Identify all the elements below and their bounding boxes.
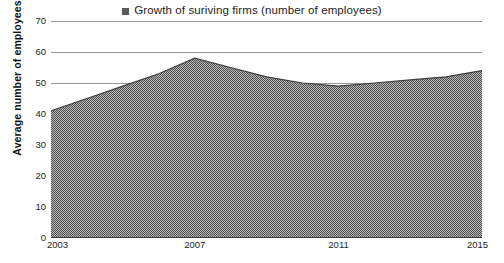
y-axis-tick-label: 10 [22,202,46,212]
x-axis-tick-label: 2015 [467,239,488,250]
y-axis-tick-label: 20 [22,171,46,181]
y-axis-tick-label: 50 [22,78,46,88]
y-axis-tick-label: 70 [22,16,46,26]
x-axis-tick-labels: 2003200720112015 [51,239,482,253]
plot-area [51,21,482,238]
y-axis-tick-label: 40 [22,109,46,119]
legend-item-label: Growth of suriving firms (number of empl… [134,4,382,17]
square-marker-icon [122,8,129,15]
area-series [51,21,482,238]
y-axis-tick-label: 30 [22,140,46,150]
y-axis-tick-label: 0 [22,233,46,243]
y-axis-tick-labels: 706050403020100 [22,21,46,238]
chart-container: Growth of suriving firms (number of empl… [0,0,504,263]
chart-legend: Growth of suriving firms (number of empl… [0,2,504,18]
x-axis-baseline [51,237,482,238]
x-axis-tick-label: 2007 [184,239,205,250]
x-axis-tick-label: 2003 [47,239,68,250]
x-axis-tick-label: 2011 [328,239,348,250]
y-axis-tick-label: 60 [22,47,46,57]
